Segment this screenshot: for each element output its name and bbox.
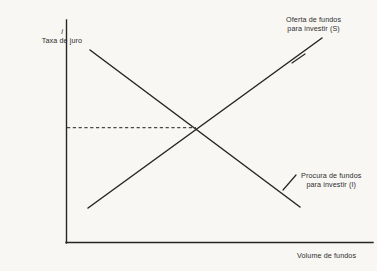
demand-label-leader-line [283,175,296,190]
y-axis-symbol: i [24,27,100,36]
y-axis-label-text: Taxa de juro [24,36,100,45]
supply-curve-line [88,38,322,208]
supply-curve-label-line-2: para investir (S) [286,24,341,33]
y-axis-label: i Taxa de juro [24,27,100,46]
supply-curve-label-line-1: Oferta de fundos [286,15,341,24]
x-axis-label: Volume de fundos [297,251,356,260]
interest-rate-loanable-funds-chart: i Taxa de juro Oferta de fundos para inv… [0,0,377,271]
demand-curve-label-line-1: Procura de fundos [301,171,361,180]
demand-curve-label-line-2: para investir (I) [301,180,361,189]
demand-curve-label: Procura de fundos para investir (I) [301,171,361,190]
supply-curve-label: Oferta de fundos para investir (S) [286,15,341,34]
